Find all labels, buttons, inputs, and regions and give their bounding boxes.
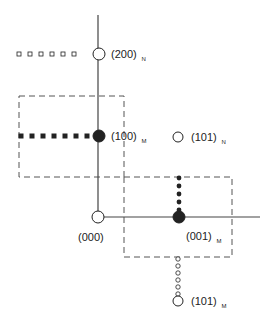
open-dot-marker-icon [176, 264, 180, 268]
filled-dot-marker-icon [177, 176, 182, 181]
point-tracks [17, 52, 181, 296]
point-labels: (000)(200)N(100)M(101)N(001)M(101)M [78, 48, 227, 309]
open-square-marker-icon [50, 52, 54, 56]
filled-square-marker-icon [63, 134, 68, 139]
label-p001M-subscript: M [217, 238, 222, 244]
open-dot-marker-icon [176, 285, 180, 289]
label-p001M: (001) [186, 230, 212, 242]
label-p101N: (101) [191, 131, 217, 143]
filled-dot-marker-icon [177, 184, 182, 189]
filled-dot-marker-icon [177, 200, 182, 205]
point-p000-open-circle-icon [92, 211, 104, 223]
label-p101N-subscript: N [222, 139, 226, 145]
open-square-marker-icon [72, 52, 76, 56]
open-dot-marker-icon [176, 278, 180, 282]
point-p200N-open-circle-icon [93, 48, 105, 60]
filled-dot-marker-icon [177, 192, 182, 197]
filled-square-marker-icon [41, 134, 46, 139]
point-p001M-filled-circle-icon [173, 211, 185, 223]
label-p200N-subscript: N [142, 56, 146, 62]
filled-square-marker-icon [19, 134, 24, 139]
open-square-marker-icon [39, 52, 43, 56]
filled-square-marker-icon [74, 134, 79, 139]
open-dot-marker-icon [176, 257, 180, 261]
label-p000: (000) [78, 231, 104, 243]
open-dot-marker-icon [176, 271, 180, 275]
label-p101M-subscript: M [222, 303, 227, 309]
upper-left-cell-box [19, 96, 124, 177]
label-p200N: (200) [111, 48, 137, 60]
label-p100M-subscript: M [142, 138, 147, 144]
open-square-marker-icon [28, 52, 32, 56]
open-square-marker-icon [17, 52, 21, 56]
point-p101N-open-circle-icon [173, 132, 183, 142]
filled-square-marker-icon [30, 134, 35, 139]
point-p101M-open-circle-icon [173, 296, 183, 306]
open-square-marker-icon [61, 52, 65, 56]
label-p100M: (100) [111, 130, 137, 142]
point-p100M-filled-circle-icon [93, 130, 105, 142]
filled-square-marker-icon [52, 134, 57, 139]
diagram-canvas: (000)(200)N(100)M(101)N(001)M(101)M [0, 0, 272, 323]
label-p101M: (101) [191, 295, 217, 307]
filled-square-marker-icon [85, 134, 90, 139]
